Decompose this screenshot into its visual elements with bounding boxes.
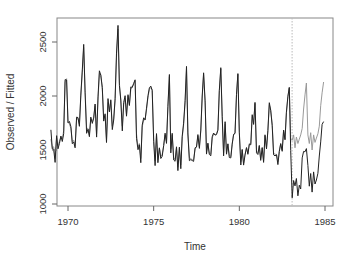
plot-area [51,18,333,206]
x-tick-label: 1975 [143,216,164,227]
y-tick-label: 1000 [37,193,48,214]
x-axis-title: Time [184,241,206,252]
y-axis-title: Observed / Fitted [5,74,16,151]
observed-series-line [51,25,324,197]
x-tick-label: 1980 [229,216,250,227]
x-axis: 1970197519801985 [57,206,335,227]
y-tick-label: 1500 [37,139,48,160]
x-tick-label: 1970 [57,216,78,227]
y-tick-label: 2500 [37,31,48,52]
time-series-chart: 1970197519801985 1000150020002500 Time O… [0,0,348,262]
y-axis: 1000150020002500 [37,31,57,214]
y-tick-label: 2000 [37,85,48,106]
x-tick-label: 1985 [314,216,335,227]
